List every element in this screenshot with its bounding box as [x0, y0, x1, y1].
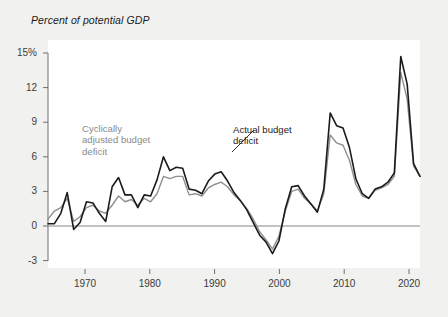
x-tick-label-2010: 2010	[324, 278, 364, 289]
y-tick-label-0: 0	[3, 220, 37, 231]
x-tick-label-2020: 2020	[389, 278, 429, 289]
y-tick-label-6: 6	[3, 151, 37, 162]
y-tick-label-9: 9	[3, 116, 37, 127]
annotation-actual-budget-deficit: Actual budget deficit	[233, 124, 292, 147]
y-axis-ticks	[43, 53, 48, 261]
x-tick-label-1980: 1980	[130, 278, 170, 289]
series-line-cyclically-adjusted	[48, 73, 420, 249]
chart-svg	[0, 0, 448, 317]
y-tick-label-15: 15%	[3, 47, 37, 58]
x-axis-ticks	[85, 269, 409, 274]
y-axis-group	[43, 53, 48, 261]
y-tick-label-3: 3	[3, 185, 37, 196]
annotation-cyclically-adjusted-budget-deficit: Cyclically adjusted budget deficit	[82, 123, 150, 157]
chart-figure: Percent of potential GDP	[0, 0, 448, 317]
y-tick-label-minus3: -3	[3, 255, 37, 266]
x-tick-label-2000: 2000	[259, 278, 299, 289]
x-tick-label-1990: 1990	[195, 278, 235, 289]
y-tick-label-12: 12	[3, 82, 37, 93]
x-tick-label-1970: 1970	[65, 278, 105, 289]
